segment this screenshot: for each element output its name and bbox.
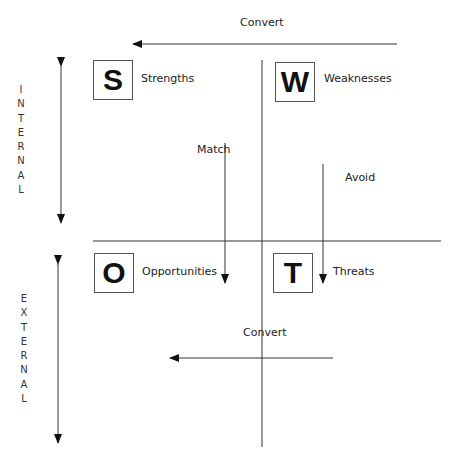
internal-axis-label: I N T E R N A L — [16, 83, 26, 197]
bottom-convert-label: Convert — [243, 327, 287, 338]
weaknesses-letter-box: W — [275, 62, 315, 102]
swot-diagram: Convert S Strengths W Weaknesses Match A… — [0, 0, 456, 466]
external-letter: A — [21, 378, 28, 392]
opportunities-label: Opportunities — [142, 266, 217, 277]
weaknesses-label: Weaknesses — [324, 73, 392, 84]
strengths-letter-box: S — [93, 60, 133, 100]
external-letter: T — [21, 321, 27, 335]
internal-letter: A — [18, 169, 25, 183]
external-letter: X — [21, 306, 28, 320]
internal-letter: R — [18, 140, 25, 154]
internal-letter: T — [18, 112, 24, 126]
external-letter: E — [21, 292, 27, 306]
diagram-lines — [0, 0, 456, 466]
internal-letter: L — [18, 183, 24, 197]
external-letter: L — [21, 392, 27, 406]
external-letter: N — [20, 363, 27, 377]
internal-letter: N — [17, 97, 24, 111]
strengths-label: Strengths — [141, 73, 194, 84]
internal-letter: N — [17, 154, 24, 168]
avoid-label: Avoid — [345, 172, 375, 183]
external-axis-label: E X T E R N A L — [19, 292, 29, 406]
threats-label: Threats — [333, 266, 375, 277]
match-label: Match — [197, 144, 231, 155]
top-convert-label: Convert — [240, 17, 284, 28]
internal-letter: I — [20, 83, 23, 97]
external-letter: E — [21, 335, 27, 349]
threats-letter-box: T — [273, 253, 313, 293]
opportunities-letter-box: O — [94, 253, 134, 293]
internal-letter: E — [18, 126, 24, 140]
external-letter: R — [21, 349, 28, 363]
